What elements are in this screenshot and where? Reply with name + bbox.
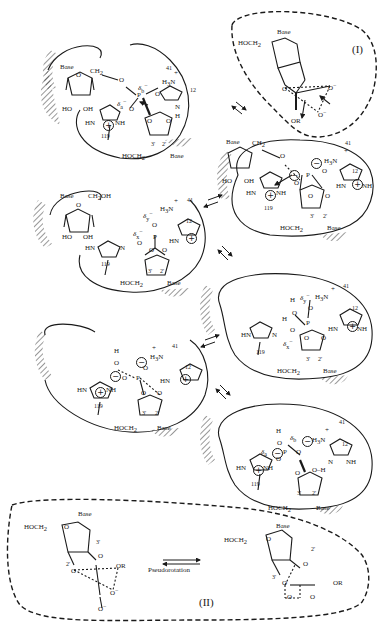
o-minus-1: O− <box>110 588 118 597</box>
inset-II-label: (II) <box>199 597 214 608</box>
o2: O <box>321 335 326 342</box>
diagram-strokes <box>0 0 383 630</box>
o2: O <box>162 247 167 254</box>
res-119: 119 <box>264 205 273 211</box>
ring-o-right: O <box>266 536 271 543</box>
o-minus-label-2: O− <box>318 110 326 119</box>
o-water: O <box>292 310 297 317</box>
h-label: H <box>276 428 281 435</box>
oy-label: O <box>308 305 313 312</box>
c3-right: 3' <box>272 574 276 580</box>
c3: 3' <box>297 490 301 496</box>
plus: + <box>174 198 178 205</box>
eq-arrow-3 <box>218 246 232 260</box>
nh-12: NH <box>362 183 372 190</box>
res-12: 12 <box>186 218 192 224</box>
o5: O <box>280 153 285 160</box>
panel-3-sugar <box>64 209 200 275</box>
base-label-2: Base <box>323 368 337 375</box>
c3: 3' <box>96 539 100 545</box>
res-41: 41 <box>345 140 351 146</box>
n-119: N <box>120 245 125 252</box>
res-119: 119 <box>251 481 260 487</box>
h-label-2: H <box>282 316 287 323</box>
oplus-119: + <box>95 387 106 398</box>
oh-label: OH <box>244 178 254 185</box>
oh-label: OH <box>83 106 93 113</box>
p-label: P <box>137 92 141 99</box>
res-41: 41 <box>187 197 193 203</box>
base-label: Base <box>277 29 291 36</box>
plus: + <box>344 148 348 155</box>
o3: O <box>304 335 309 342</box>
base-label-2: Base <box>170 153 184 160</box>
hn-119: HN <box>85 120 95 127</box>
delta-x: δx− <box>283 338 293 350</box>
hn-119: HN <box>77 387 87 394</box>
oh-label: OH <box>83 234 93 241</box>
eq-arrow-5 <box>216 385 230 399</box>
hn-119: HN <box>241 332 251 339</box>
res-119: 119 <box>101 261 110 267</box>
ominus-2: − <box>110 371 121 382</box>
ring-o: O <box>76 202 81 209</box>
o3: O <box>147 118 152 125</box>
c3: 3' <box>148 268 152 274</box>
o3: O <box>141 390 146 397</box>
ring-o: O <box>76 72 81 79</box>
h3n-label: H3N <box>160 206 173 215</box>
oplus-119: + <box>103 120 114 131</box>
o2: O <box>71 568 76 575</box>
ring-o: O <box>64 524 69 531</box>
or-label-right: OR <box>333 580 343 587</box>
panel-4-sugar <box>250 300 362 355</box>
o-top: O <box>277 440 282 447</box>
nh-119: NH <box>263 465 273 472</box>
hn-119: HN <box>246 190 256 197</box>
res-12: 12 <box>185 364 191 370</box>
o-label: O <box>282 86 287 93</box>
hoch2-label: HOCH2 <box>238 40 261 49</box>
p-label: P <box>306 172 310 179</box>
o3: O <box>149 247 154 254</box>
c2: 2' <box>323 213 327 219</box>
inset-I-label: (I) <box>352 44 363 55</box>
h3n-label: H3N <box>162 79 175 88</box>
hoch2-label: HOCH2 <box>120 280 143 289</box>
oy-label: O <box>152 222 157 229</box>
o-upper: O <box>143 365 148 372</box>
plus: + <box>325 427 329 434</box>
o-minus-2: O− <box>98 604 106 613</box>
o3: O <box>98 553 103 560</box>
h-label: H <box>290 297 295 304</box>
ho-label: HO <box>62 234 72 241</box>
o2: O <box>325 193 330 200</box>
ho-label: HO <box>222 178 232 185</box>
plus: + <box>174 70 178 77</box>
c2-right: 2' <box>311 546 315 552</box>
delta-x: δx− <box>133 228 143 240</box>
o-left: O <box>122 375 127 382</box>
ox-label: O <box>137 240 142 247</box>
eq-arrow-4 <box>201 335 219 347</box>
nh-119: NH <box>276 190 286 197</box>
plus: + <box>152 345 156 352</box>
res-119: 119 <box>101 133 110 139</box>
res-119: 119 <box>94 403 103 409</box>
c2: 2' <box>155 410 159 416</box>
inset-I-border <box>232 12 376 137</box>
h3n-label: H3N <box>324 158 337 167</box>
c3: 3' <box>310 213 314 219</box>
base-label: Base <box>78 511 92 518</box>
ch2oh-label: CH2OH <box>88 193 111 202</box>
h3n-label: H3N <box>315 294 328 303</box>
o5-label: O <box>119 77 124 84</box>
ominus-1: − <box>311 158 322 169</box>
res-12: 12 <box>352 305 358 311</box>
o-lower-1: O <box>287 594 292 601</box>
h3n-label: H3N <box>312 437 325 446</box>
h-label: H <box>175 113 180 120</box>
delta-a: δa− <box>117 98 126 110</box>
o-water: O <box>114 360 119 367</box>
nh-12: NH <box>346 459 356 466</box>
